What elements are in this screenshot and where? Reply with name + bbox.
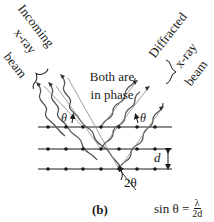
panel-label: (b) (92, 203, 108, 216)
formula-fraction: λ 2d (192, 198, 202, 219)
theta-right-label: θ (140, 112, 146, 125)
formula-denominator: 2d (192, 209, 202, 219)
spacing-d-label: d (154, 151, 161, 164)
phase-label-line2: in phase (80, 88, 144, 101)
atoms (46, 125, 157, 171)
bragg-formula: sin θ = λ 2d (154, 198, 202, 219)
theta-left-arrow (72, 116, 73, 123)
theta-right-arrow (136, 116, 138, 123)
phase-label-line1: Both are (80, 70, 144, 83)
formula-lhs: sin θ = (154, 201, 189, 217)
theta-left-label: θ (61, 112, 67, 125)
two-theta-label: 2θ (124, 176, 137, 189)
